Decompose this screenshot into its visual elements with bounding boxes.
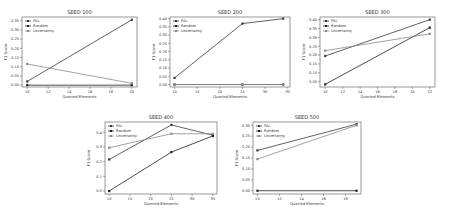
legend-label: Uncertainty bbox=[331, 29, 353, 33]
legend-label: Random bbox=[331, 24, 346, 28]
x-tick-label: 18 bbox=[109, 90, 114, 94]
y-tick-label: 0.40 bbox=[159, 17, 168, 21]
y-tick-label: 0.15 bbox=[11, 56, 19, 60]
x-tick-label: 18 bbox=[343, 197, 348, 201]
legend-label: Random bbox=[181, 24, 196, 28]
data-point-marker bbox=[170, 133, 172, 135]
x-axis-label: Queried Elements bbox=[63, 94, 97, 99]
data-point-marker bbox=[108, 158, 110, 160]
data-point-marker bbox=[324, 83, 326, 85]
data-point-marker bbox=[173, 83, 175, 85]
chart-seed-100: SEED 1000.000.050.100.150.200.250.300.35… bbox=[0, 0, 155, 110]
y-tick-label: 0.30 bbox=[242, 124, 251, 128]
data-point-marker bbox=[256, 149, 258, 151]
y-tick-label: 0.10 bbox=[11, 65, 20, 69]
y-tick-label: 0.25 bbox=[242, 134, 250, 138]
x-axis-label: Queried Elements bbox=[361, 94, 395, 99]
legend-label: PAL bbox=[181, 19, 187, 23]
legend-label: PAL bbox=[33, 19, 39, 23]
y-tick-label: 0.00 bbox=[159, 83, 168, 87]
data-point-marker bbox=[173, 77, 175, 79]
y-tick-label: 0.15 bbox=[242, 156, 250, 160]
chart-title: SEED 500 bbox=[295, 114, 319, 120]
x-axis-label: Queried Elements bbox=[213, 94, 247, 99]
y-tick-label: 0.25 bbox=[11, 37, 19, 41]
y-tick-label: 0.00 bbox=[242, 189, 251, 193]
data-point-marker bbox=[324, 55, 326, 57]
x-tick-label: 10 bbox=[172, 90, 177, 94]
chart-seed-200: SEED 2000.000.050.100.150.200.250.300.35… bbox=[150, 0, 305, 110]
y-axis-label: F1 Score bbox=[234, 149, 239, 166]
x-tick-label: 10 bbox=[255, 197, 260, 201]
data-point-marker bbox=[429, 19, 431, 21]
y-axis-label: F1 Score bbox=[86, 149, 91, 166]
data-point-marker bbox=[170, 124, 172, 126]
y-tick-label: 0.15 bbox=[159, 58, 167, 62]
y-axis-label: F1 Score bbox=[151, 43, 156, 60]
y-tick-label: 0.20 bbox=[11, 47, 20, 51]
x-tick-label: 12 bbox=[340, 90, 345, 94]
data-point-marker bbox=[241, 22, 243, 24]
x-tick-label: 20 bbox=[410, 90, 415, 94]
data-point-marker bbox=[256, 158, 258, 160]
x-axis-label: Queried Elements bbox=[290, 201, 324, 206]
series-line-uncertainty bbox=[325, 34, 430, 51]
y-tick-label: 0.35 bbox=[309, 27, 317, 31]
y-tick-label: 0.20 bbox=[309, 53, 318, 57]
legend-label: PAL bbox=[116, 124, 122, 128]
data-point-marker bbox=[26, 80, 28, 82]
data-point-marker bbox=[429, 27, 431, 29]
x-tick-label: 12 bbox=[277, 197, 282, 201]
y-tick-label: 0.35 bbox=[159, 25, 167, 29]
legend-label: Uncertainty bbox=[264, 134, 286, 138]
x-tick-label: 15 bbox=[195, 90, 200, 94]
y-axis-label: F1 Score bbox=[3, 43, 8, 60]
data-point-marker bbox=[108, 147, 110, 149]
x-axis-label: Queried Elements bbox=[144, 201, 178, 206]
y-tick-label: 0.05 bbox=[11, 74, 19, 78]
legend-label: Uncertainty bbox=[33, 29, 55, 33]
data-point-marker bbox=[170, 151, 172, 153]
data-point-marker bbox=[429, 33, 431, 35]
data-point-marker bbox=[355, 124, 357, 126]
chart-title: SEED 100 bbox=[67, 9, 91, 15]
y-tick-label: 0.20 bbox=[159, 50, 168, 54]
legend-label: Random bbox=[264, 129, 279, 133]
data-point-marker bbox=[212, 135, 214, 137]
y-tick-label: 0.20 bbox=[242, 145, 251, 149]
y-axis-label: F1 Score bbox=[301, 43, 306, 60]
y-tick-label: 0.4 bbox=[96, 131, 102, 135]
y-tick-label: 0.1 bbox=[96, 175, 102, 179]
chart-title: SEED 300 bbox=[365, 9, 389, 15]
y-tick-label: 0.30 bbox=[11, 28, 20, 32]
y-tick-label: 0.0 bbox=[96, 189, 102, 193]
x-tick-label: 35 bbox=[211, 197, 216, 201]
x-tick-label: 10 bbox=[323, 90, 328, 94]
y-tick-label: 0.05 bbox=[242, 178, 250, 182]
data-point-marker bbox=[355, 190, 357, 192]
y-tick-label: 0.00 bbox=[11, 83, 20, 87]
data-point-marker bbox=[131, 19, 133, 21]
y-tick-label: 0.30 bbox=[309, 36, 318, 40]
chart-seed-500: SEED 5000.000.050.100.150.200.250.301012… bbox=[225, 108, 380, 216]
data-point-marker bbox=[26, 84, 28, 86]
legend-label: PAL bbox=[331, 19, 337, 23]
chart-seed-300: SEED 3000.050.100.150.200.250.300.350.40… bbox=[300, 0, 453, 110]
chart-title: SEED 400 bbox=[149, 114, 173, 120]
y-tick-label: 0.25 bbox=[309, 45, 317, 49]
x-tick-label: 10 bbox=[25, 90, 30, 94]
legend-label: Uncertainty bbox=[181, 29, 203, 33]
y-tick-label: 0.30 bbox=[159, 33, 168, 37]
y-tick-label: 0.25 bbox=[159, 42, 167, 46]
y-tick-label: 0.2 bbox=[96, 160, 102, 164]
data-point-marker bbox=[324, 50, 326, 52]
y-tick-label: 0.10 bbox=[309, 71, 318, 75]
legend-label: Random bbox=[33, 24, 48, 28]
legend-label: PAL bbox=[264, 124, 270, 128]
y-tick-label: 0.05 bbox=[309, 80, 317, 84]
legend-label: Random bbox=[116, 129, 131, 133]
chart-title: SEED 200 bbox=[218, 9, 242, 15]
chart-seed-400: SEED 4000.00.10.20.30.4101520253035Queri… bbox=[70, 108, 225, 216]
y-tick-label: 0.10 bbox=[159, 66, 168, 70]
data-point-marker bbox=[282, 18, 284, 20]
